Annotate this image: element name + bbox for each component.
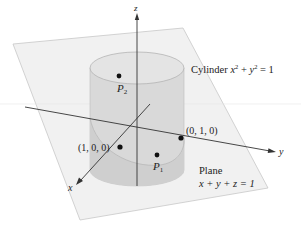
point-p1-marker: [155, 153, 160, 158]
z-axis-label: z: [133, 3, 138, 13]
x-axis-label: x: [67, 182, 73, 193]
y-axis-arrow: [268, 148, 276, 153]
point-0-1-0-marker: [178, 135, 183, 140]
cylinder-label: Cylinder x2 + y2 = 1: [191, 63, 274, 75]
point-1-0-0-marker: [117, 144, 122, 149]
point-p2-marker: [117, 74, 122, 79]
plane-equation: x + y + z = 1: [198, 178, 255, 189]
cylinder-plane-diagram: z y x (1, 0, 0) (0, 1, 0) P1 P2 Cylinder…: [0, 0, 301, 227]
plane-label: Plane: [199, 165, 223, 176]
y-axis-label: y: [278, 146, 284, 157]
point-0-1-0-label: (0, 1, 0): [186, 125, 218, 137]
z-axis-arrow: [135, 13, 139, 20]
point-1-0-0-label: (1, 0, 0): [78, 142, 110, 154]
